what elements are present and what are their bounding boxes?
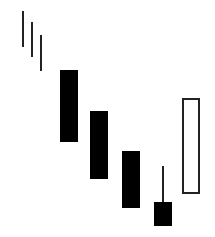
candle-body	[122, 151, 140, 208]
candle-2-bearish	[90, 111, 108, 179]
candlestick-diagram	[0, 0, 215, 237]
candle-body	[90, 111, 108, 179]
candle-3-bearish	[122, 151, 140, 208]
candle-1-bearish	[60, 70, 78, 142]
candle-body	[60, 70, 78, 142]
candlesticks	[60, 70, 199, 226]
candle-body	[183, 99, 199, 193]
candle-4-bearish	[154, 166, 172, 226]
downtrend-lines	[23, 11, 41, 71]
candle-body	[154, 202, 172, 226]
candle-5-bullish	[183, 99, 199, 193]
